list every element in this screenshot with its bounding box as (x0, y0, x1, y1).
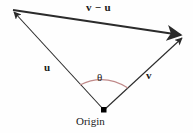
label-vector-v-minus-u: v − u (86, 2, 111, 13)
vector-v-minus-u-line (13, 10, 181, 35)
label-vector-u: u (44, 62, 50, 73)
vector-u-line (14, 12, 104, 110)
diagram-canvas (0, 0, 193, 133)
label-vector-v: v (146, 70, 152, 81)
label-angle-theta: θ (97, 72, 102, 83)
origin-dot (101, 107, 107, 113)
angle-arc (80, 80, 128, 88)
vector-v-line (104, 38, 182, 110)
label-origin: Origin (76, 116, 105, 127)
vector-triangle-figure: v − u u v θ Origin (0, 0, 193, 133)
